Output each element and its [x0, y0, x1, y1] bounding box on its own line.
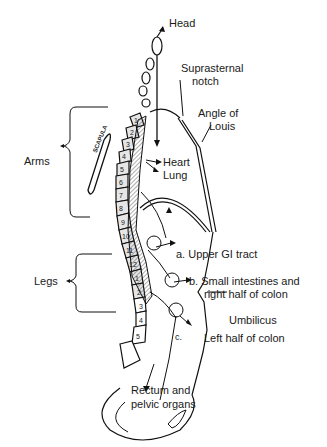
vertebra-t4: 4 [122, 151, 126, 163]
vertebra-t1: 1 [134, 115, 138, 127]
c-marker-label: c. [175, 331, 182, 343]
head-label: Head [169, 17, 195, 29]
vertebra-l2: 2 [137, 287, 141, 299]
cervical-spine [139, 37, 162, 107]
vertebra-l1: 1 [135, 273, 139, 285]
vertebra-t2: 2 [130, 127, 134, 139]
rectum-label-1: Rectum and [131, 384, 190, 396]
rectum-label-2: pelvic organs [131, 398, 196, 410]
vertebra-l4: 4 [139, 315, 143, 327]
vertebra-t12: 12 [129, 259, 137, 271]
vertebra-t10: 10 [122, 231, 130, 243]
vertebra-t3: 3 [126, 139, 130, 151]
upper-gi-label: a. Upper GI tract [176, 248, 257, 260]
vertebra-t8: 8 [119, 203, 123, 215]
heart-label: Heart [163, 156, 190, 168]
left-colon-label: Left half of colon [204, 332, 285, 344]
vertebra-t11: 11 [126, 245, 133, 257]
lung-label: Lung [163, 169, 187, 181]
vertebra-l5: 5 [136, 331, 140, 343]
vertebra-t9: 9 [121, 217, 125, 229]
small-intestines-label-2: right half of colon [204, 288, 288, 300]
vertebra-l3: 3 [139, 301, 143, 313]
small-intestines-label-1: b. Small intestines and [189, 275, 300, 287]
vertebra-t7: 7 [119, 190, 123, 202]
arms-label: Arms [24, 155, 50, 167]
umbilicus-label: Umbilicus [229, 314, 277, 326]
angle-of-louis-label-2: Louis [209, 120, 235, 132]
angle-of-louis-label-1: Angle of [198, 107, 238, 119]
legs-label: Legs [34, 275, 58, 287]
suprasternal-notch-label-2: notch [192, 75, 219, 87]
suprasternal-notch-label-1: Suprasternal [181, 62, 243, 74]
vertebra-t6: 6 [119, 177, 123, 189]
diagram-canvas [0, 0, 327, 447]
vertebra-t5: 5 [120, 164, 124, 176]
